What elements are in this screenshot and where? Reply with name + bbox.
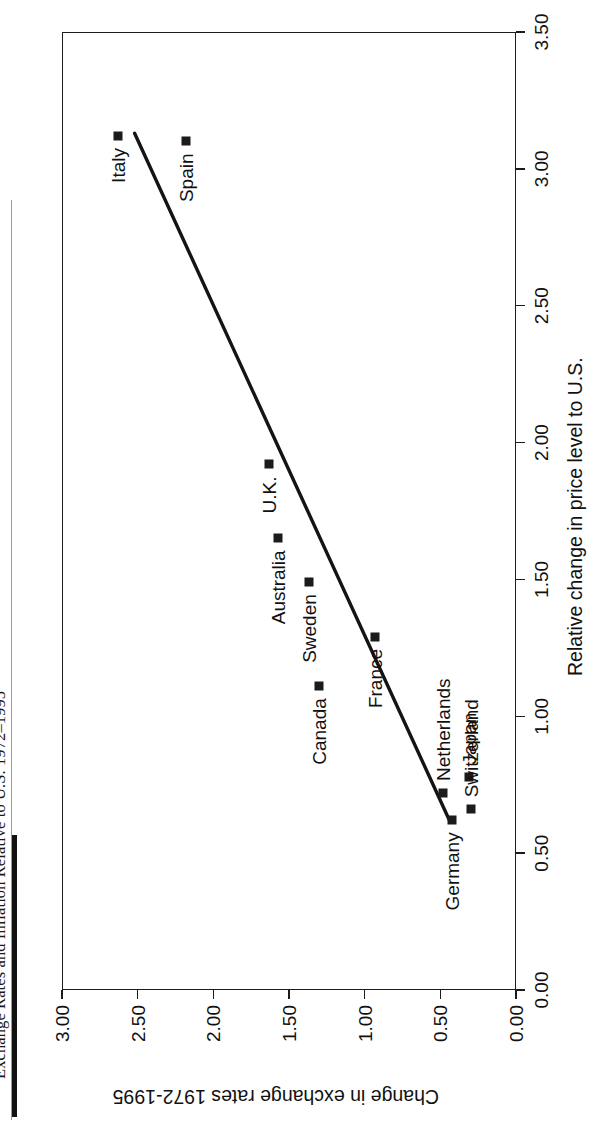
data-point-marker: [466, 805, 475, 814]
x-axis-tick: [516, 716, 525, 717]
y-axis-tick: [288, 990, 289, 999]
data-point-label: France: [366, 649, 385, 1127]
x-axis-tick: [516, 168, 525, 169]
x-axis-tick-label: 3.50: [532, 0, 551, 72]
y-axis-tick: [364, 990, 365, 999]
data-point-marker: [274, 534, 283, 543]
data-point-label: Germany: [443, 832, 462, 1127]
x-axis-tick-label: 2.50: [532, 266, 551, 346]
x-axis-tick: [516, 852, 525, 853]
x-axis-title: Relative change in price level to U.S.: [564, 357, 586, 676]
y-axis-tick-label: 2.50: [129, 1005, 148, 1085]
data-point-marker: [182, 137, 191, 146]
data-point-label: Spain: [177, 154, 196, 1127]
data-point-marker: [371, 632, 380, 641]
x-axis-tick-label: 2.00: [532, 403, 551, 483]
data-point-label: Netherlands: [434, 678, 453, 780]
data-point-marker: [315, 682, 324, 691]
y-axis-tick: [61, 990, 62, 999]
x-axis-tick: [516, 989, 525, 990]
data-point-marker: [265, 460, 274, 469]
data-point-marker: [304, 578, 313, 587]
data-point-marker: [113, 132, 122, 141]
y-axis-tick: [213, 990, 214, 999]
data-point-marker: [448, 816, 457, 825]
x-axis-tick-label: 0.50: [532, 813, 551, 893]
x-axis-tick-label: 3.00: [532, 129, 551, 209]
x-axis-tick-label: 1.50: [532, 539, 551, 619]
y-axis-tick-label: 2.00: [204, 1005, 223, 1085]
y-axis-tick: [440, 990, 441, 999]
data-point-label: Australia: [269, 550, 288, 1127]
x-axis-tick-label: 1.00: [532, 676, 551, 756]
x-axis-tick: [516, 305, 525, 306]
x-axis-tick: [516, 442, 525, 443]
x-axis-tick: [516, 579, 525, 580]
y-axis-tick-label: 0.00: [507, 1005, 526, 1085]
chart-stage: 0.000.501.001.502.002.503.003.50 0.000.5…: [0, 0, 595, 1127]
data-point-marker: [439, 788, 448, 797]
y-axis-tick-label: 3.00: [53, 1005, 72, 1085]
data-point-label: Canada: [310, 698, 329, 1127]
data-point-label: Italy: [109, 148, 128, 1127]
x-axis-tick: [516, 31, 525, 32]
y-axis-tick: [515, 990, 516, 999]
x-axis-tick-label: 0.00: [532, 950, 551, 1030]
data-point-label: Switzerland: [462, 699, 481, 797]
y-axis-tick: [137, 990, 138, 999]
y-axis-title: Change in exchange rates 1972-1995: [113, 1086, 439, 1108]
